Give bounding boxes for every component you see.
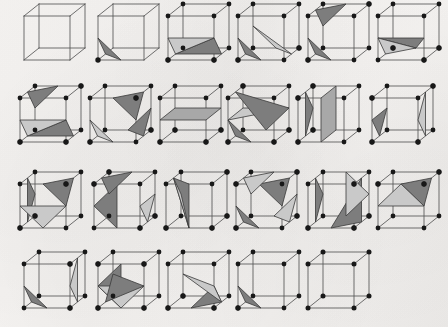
cube-case-21: 21: [232, 258, 304, 324]
cube-case-8: 8: [154, 92, 226, 158]
cube-case-15: 15: [230, 178, 302, 244]
isosurface-polygons: [236, 172, 297, 228]
cube-case-3: 3: [232, 10, 304, 76]
isosurface-polygons: [238, 26, 292, 60]
inside-corner-vertices: [306, 250, 372, 311]
cube-case-20: 20: [162, 258, 234, 324]
cube-case-2: 2: [162, 10, 234, 76]
isosurface-polygons: [90, 92, 151, 142]
isosurface-polygons: [306, 86, 337, 142]
cube-case-11: 11: [366, 92, 438, 158]
cube-case-18: 18: [18, 258, 90, 324]
cube-case-10: 10: [292, 92, 364, 158]
isosurface-polygons: [183, 274, 222, 308]
isosurface-polygons: [308, 4, 346, 60]
cube-case-16: 16: [302, 178, 374, 244]
isosurface-polygons: [94, 172, 155, 228]
cube-case-7: 7: [84, 92, 156, 158]
cube-case-22: 22: [302, 258, 374, 324]
isosurface-polygons: [168, 38, 222, 54]
cube-case-12: 12: [14, 178, 86, 244]
isosurface-polygons: [378, 38, 424, 54]
cube-case-0: 0: [18, 10, 90, 76]
cube-case-9: 9: [222, 92, 294, 158]
cube-case-13: 13: [88, 178, 160, 244]
cube-wireframe: [308, 252, 369, 308]
marching-cubes-figure-sheet: 012345678910111213141516171819202122: [0, 0, 448, 327]
cube-case-4: 4: [302, 10, 374, 76]
inside-corner-vertices: [95, 57, 100, 62]
isosurface-polygons: [98, 264, 144, 308]
cube-case-5: 5: [372, 10, 444, 76]
cube-case-17: 17: [372, 178, 444, 244]
cube-case-1: 1: [92, 10, 164, 76]
isosurface-polygons: [160, 108, 221, 120]
isosurface-polygons: [316, 172, 370, 228]
cube-case-14: 14: [160, 178, 232, 244]
isosurface-polygons: [20, 86, 74, 136]
isosurface-polygons: [228, 92, 289, 142]
cube-wireframe: [24, 4, 85, 60]
cube-case-6: 6: [14, 92, 86, 158]
cube-case-19: 19: [92, 258, 164, 324]
